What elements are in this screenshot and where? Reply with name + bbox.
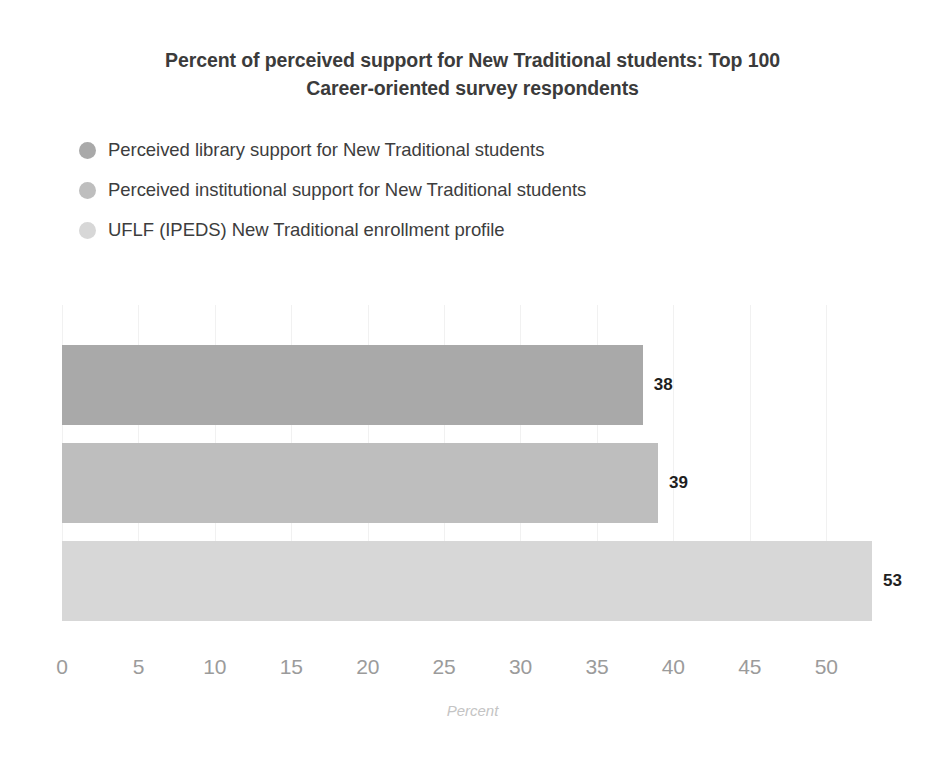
legend-swatch-icon <box>79 222 96 239</box>
x-axis-tick-label: 10 <box>203 655 226 679</box>
chart-title-line-2: Career-oriented survey respondents <box>0 74 945 102</box>
x-axis-tick-label: 40 <box>662 655 685 679</box>
bar-value-label: 53 <box>883 571 902 591</box>
plot-area: 38 39 53 <box>62 305 872 615</box>
x-axis-tick-label: 30 <box>509 655 532 679</box>
bar-uflf-enrollment-profile[interactable] <box>62 541 872 621</box>
legend-swatch-icon <box>79 142 96 159</box>
chart-page: Percent of perceived support for New Tra… <box>0 0 945 759</box>
bar-value-label: 38 <box>654 375 673 395</box>
page-title: Percent of perceived support for New Tra… <box>0 46 945 102</box>
x-axis-title: Percent <box>0 702 945 719</box>
bar-series: 38 39 53 <box>62 305 872 615</box>
x-axis-tick-label: 25 <box>433 655 456 679</box>
legend-item-library-support[interactable]: Perceived library support for New Tradit… <box>79 130 909 170</box>
x-axis: 05101520253035404550 <box>62 655 872 685</box>
bar-row: 53 <box>62 541 872 621</box>
x-axis-tick-label: 50 <box>815 655 838 679</box>
legend-item-label: Perceived institutional support for New … <box>108 179 586 201</box>
legend-swatch-icon <box>79 182 96 199</box>
chart-legend: Perceived library support for New Tradit… <box>79 130 909 250</box>
x-axis-tick-label: 5 <box>133 655 144 679</box>
chart-title-line-1: Percent of perceived support for New Tra… <box>0 46 945 74</box>
legend-item-uflf-enrollment-profile[interactable]: UFLF (IPEDS) New Traditional enrollment … <box>79 210 909 250</box>
legend-item-label: Perceived library support for New Tradit… <box>108 139 544 161</box>
bar-library-support[interactable] <box>62 345 643 425</box>
legend-item-institutional-support[interactable]: Perceived institutional support for New … <box>79 170 909 210</box>
bar-value-label: 39 <box>669 473 688 493</box>
x-axis-tick-label: 15 <box>280 655 303 679</box>
x-axis-tick-label: 35 <box>585 655 608 679</box>
x-axis-tick-label: 45 <box>738 655 761 679</box>
bar-row: 39 <box>62 443 872 523</box>
x-axis-tick-label: 0 <box>56 655 67 679</box>
x-axis-tick-label: 20 <box>356 655 379 679</box>
bar-institutional-support[interactable] <box>62 443 658 523</box>
bar-row: 38 <box>62 345 872 425</box>
legend-item-label: UFLF (IPEDS) New Traditional enrollment … <box>108 219 505 241</box>
